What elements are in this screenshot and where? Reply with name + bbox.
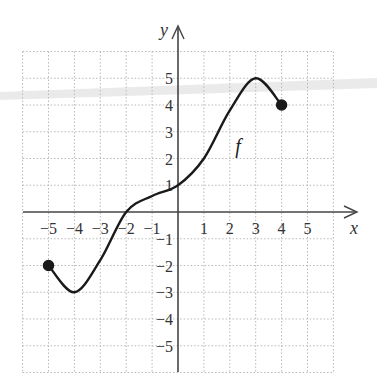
y-tick-label: 4: [165, 97, 173, 114]
endpoint-dot: [277, 100, 287, 110]
x-tick-label: 4: [278, 220, 286, 237]
endpoint-dot: [44, 261, 54, 271]
x-tick-label: −5: [40, 220, 57, 237]
x-tick-label: 5: [304, 220, 312, 237]
y-tick-label: −3: [156, 284, 173, 301]
y-tick-label: 5: [165, 70, 173, 87]
function-label: f: [235, 135, 243, 158]
x-tick-label: −4: [66, 220, 83, 237]
scan-streak: [0, 78, 377, 100]
y-tick-label: 2: [165, 151, 173, 168]
x-tick-label: 3: [252, 220, 260, 237]
y-tick-label: −5: [156, 338, 173, 355]
x-axis-label: x: [349, 218, 358, 238]
x-tick-label: 1: [200, 220, 208, 237]
y-tick-label: 3: [165, 124, 173, 141]
x-tick-label: −3: [92, 220, 109, 237]
y-tick-label: −1: [156, 231, 173, 248]
y-tick-label: −4: [156, 311, 173, 328]
y-tick-label: −2: [156, 258, 173, 275]
x-tick-label: 2: [226, 220, 234, 237]
function-graph: x y −5−4−3−2−11234554321−1−2−3−4−5 f: [0, 0, 377, 391]
y-axis-label: y: [158, 20, 168, 40]
